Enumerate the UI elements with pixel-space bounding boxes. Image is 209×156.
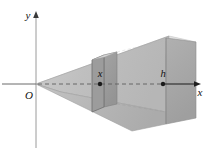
length-h-label: h <box>160 68 165 79</box>
wedge-right-end-face <box>166 38 196 124</box>
origin-label: O <box>25 89 33 101</box>
length-h-point-marker <box>161 82 165 86</box>
cross-section-label: x <box>97 68 103 79</box>
cross-section-point-marker <box>98 82 102 86</box>
wedge-solid-diagram: x h x y O <box>0 0 209 156</box>
math-figure-container: x h x y O <box>0 0 209 156</box>
cross-section-side-face <box>104 52 117 107</box>
x-axis-label: x <box>197 86 203 98</box>
y-axis-label: y <box>25 9 31 21</box>
